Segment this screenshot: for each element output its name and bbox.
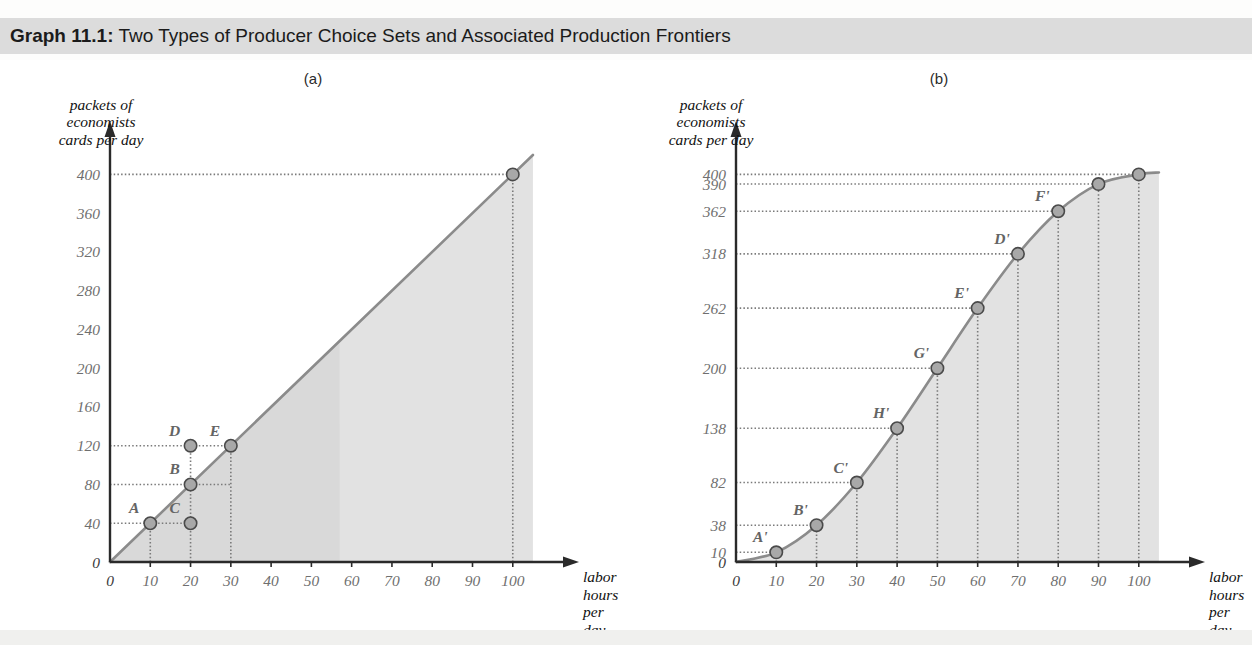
data-point-label: E' (953, 284, 969, 301)
data-point-marker[interactable] (851, 476, 863, 488)
data-point-label: D' (993, 230, 1010, 247)
panel-a-caption: (a) (0, 70, 626, 87)
data-point-label: C (169, 499, 180, 516)
y-tick-label: 120 (77, 437, 101, 454)
data-point-marker[interactable] (184, 440, 196, 452)
panel-a-y-axis-label: packets of economists cards per day (36, 96, 166, 148)
data-point-marker[interactable] (1012, 248, 1024, 260)
x-tick-label: 0 (106, 572, 114, 589)
x-tick-label: 50 (930, 572, 946, 589)
data-point-marker[interactable] (184, 478, 196, 490)
data-point-marker[interactable] (225, 440, 237, 452)
data-point-marker[interactable] (184, 517, 196, 529)
x-tick-label: 90 (465, 572, 481, 589)
y-tick-label: 82 (711, 474, 727, 491)
x-tick-label: 10 (769, 572, 785, 589)
data-point-label: C' (834, 459, 849, 476)
x-tick-label: 60 (970, 572, 986, 589)
x-tick-label: 90 (1091, 572, 1107, 589)
x-tick-label: 30 (222, 572, 239, 589)
y-tick-label: 80 (85, 476, 101, 493)
data-point-label: F' (1034, 187, 1050, 204)
data-point-marker[interactable] (1092, 178, 1104, 190)
data-point-marker[interactable] (144, 517, 156, 529)
panel-b-y-axis-label: packets of economists cards per day (646, 96, 776, 148)
data-point-marker[interactable] (1133, 168, 1145, 180)
panel-b-x-axis-label: labor hours per day (1209, 568, 1252, 639)
x-tick-label: 0 (732, 572, 740, 589)
x-tick-label: 50 (304, 572, 320, 589)
x-tick-label: 20 (809, 572, 825, 589)
x-axis-arrowhead (563, 557, 579, 568)
panel-a: (a) packets of economists cards per day … (0, 60, 626, 630)
y-tick-label: 240 (77, 321, 101, 338)
x-axis-arrowhead (1189, 557, 1205, 568)
x-tick-label: 70 (384, 572, 400, 589)
data-point-marker[interactable] (1052, 205, 1064, 217)
y-tick-label: 200 (77, 360, 101, 377)
panel-b: (b) packets of economists cards per day … (626, 60, 1252, 630)
figure-title: Two Types of Producer Choice Sets and As… (118, 25, 730, 46)
figure-body: (a) packets of economists cards per day … (0, 60, 1252, 630)
data-point-label: A' (752, 528, 768, 545)
x-tick-label: 70 (1010, 572, 1026, 589)
y-tick-label: 138 (703, 420, 727, 437)
x-tick-label: 80 (1050, 572, 1066, 589)
y-tick-label: 400 (77, 166, 101, 183)
data-point-label: B' (792, 501, 808, 518)
y-tick-label: 200 (703, 360, 727, 377)
data-point-marker[interactable] (507, 168, 519, 180)
figure-number-label: Graph 11.1: (10, 25, 114, 46)
figure-header-text: Graph 11.1: Two Types of Producer Choice… (0, 25, 731, 47)
y-tick-label: 262 (703, 300, 727, 317)
data-point-marker[interactable] (931, 362, 943, 374)
data-point-marker[interactable] (891, 422, 903, 434)
x-tick-label: 100 (501, 572, 525, 589)
x-tick-label: 40 (263, 572, 279, 589)
x-tick-label: 10 (143, 572, 159, 589)
data-point-label: B (168, 460, 179, 477)
x-tick-label: 60 (344, 572, 360, 589)
x-tick-label: 30 (848, 572, 865, 589)
y-tick-label: 320 (76, 243, 101, 260)
data-point-marker[interactable] (810, 519, 822, 531)
data-point-label: D (168, 422, 180, 439)
x-tick-label: 80 (424, 572, 440, 589)
y-tick-label: 280 (77, 282, 101, 299)
x-tick-label: 20 (183, 572, 199, 589)
panel-b-caption: (b) (626, 70, 1252, 87)
y-tick-label: 40 (85, 515, 101, 532)
y-tick-label: 10 (711, 544, 727, 561)
figure-page: Graph 11.1: Two Types of Producer Choice… (0, 0, 1252, 645)
data-point-label: E (209, 422, 220, 439)
panel-a-x-axis-label: labor hours per day (583, 568, 626, 639)
page-footer-strip (0, 630, 1252, 645)
x-tick-label: 40 (889, 572, 905, 589)
data-point-label: H' (872, 404, 889, 421)
y-tick-label: 400 (703, 166, 727, 183)
y-tick-label: 362 (702, 203, 727, 220)
y-tick-label: 0 (92, 554, 100, 571)
y-tick-label: 160 (77, 398, 101, 415)
x-tick-label: 100 (1127, 572, 1151, 589)
data-point-label: A (128, 499, 139, 516)
figure-header-bar: Graph 11.1: Two Types of Producer Choice… (0, 18, 1252, 54)
y-tick-label: 38 (710, 517, 727, 534)
data-point-marker[interactable] (770, 546, 782, 558)
data-point-marker[interactable] (971, 302, 983, 314)
y-tick-label: 318 (702, 245, 727, 262)
y-tick-label: 360 (76, 205, 101, 222)
data-point-label: G' (914, 344, 930, 361)
